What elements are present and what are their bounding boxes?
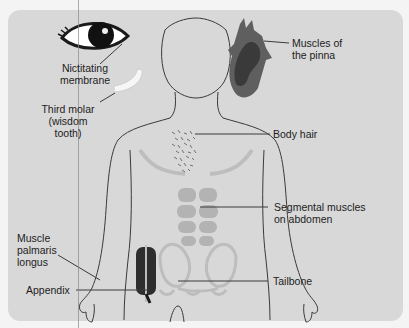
- label-palmaris-longus: Muscle palmaris longus: [17, 232, 57, 268]
- collarbone: [140, 150, 252, 174]
- label-line: palmaris: [17, 244, 57, 256]
- label-tailbone: Tailbone: [273, 275, 312, 287]
- label-line: (wisdom: [34, 115, 102, 127]
- label-line: Nictitating: [45, 62, 125, 74]
- label-nictitating-membrane: Nictitating membrane: [45, 62, 125, 86]
- label-muscles-of-pinna: Muscles of the pinna: [292, 37, 342, 61]
- label-segmental-muscles: Segmental muscles on abdomen: [274, 201, 366, 225]
- label-line: membrane: [45, 74, 125, 86]
- label-body-hair: Body hair: [273, 128, 317, 140]
- label-appendix: Appendix: [26, 284, 70, 296]
- label-line: tooth): [34, 127, 102, 139]
- label-line: the pinna: [292, 49, 342, 61]
- label-line: longus: [17, 256, 57, 268]
- guide-line: [78, 0, 79, 328]
- label-third-molar: Third molar (wisdom tooth): [34, 103, 102, 139]
- label-line: Segmental muscles: [274, 201, 366, 213]
- abdominal-muscles: [177, 188, 218, 246]
- label-line: on abdomen: [274, 213, 366, 225]
- human-body-illustration: [0, 0, 409, 328]
- body-hair-pattern: [172, 130, 196, 172]
- label-line: Muscle: [17, 232, 57, 244]
- pelvis: [160, 244, 236, 294]
- ear-illustration: [228, 18, 272, 97]
- label-line: Muscles of: [292, 37, 342, 49]
- label-line: Third molar: [34, 103, 102, 115]
- appendix-colon: [136, 245, 156, 303]
- eye-illustration: [58, 22, 128, 48]
